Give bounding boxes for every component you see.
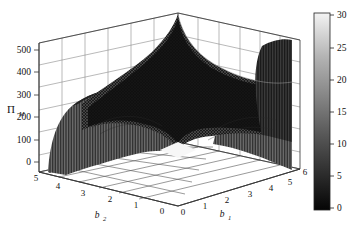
- z-tick-400: 400: [17, 67, 32, 77]
- b2-tick-5: 5: [34, 173, 39, 183]
- z-tick-0: 0: [26, 157, 31, 167]
- colorbar-gradient: [314, 13, 330, 210]
- b1-axis-title-subscript: 1: [228, 214, 231, 221]
- b1-tick-4: 4: [269, 183, 274, 193]
- b1-tick-6: 6: [303, 167, 308, 177]
- colorbar-tick-25: 25: [337, 43, 347, 53]
- z-tick-300: 300: [17, 90, 32, 100]
- z-axis-title-subscript: M: [18, 110, 25, 117]
- surface-mesh: [48, 14, 292, 175]
- b2-tick-4: 4: [56, 181, 61, 191]
- b1-tick-5: 5: [288, 177, 293, 187]
- b1-tick-0: 0: [181, 207, 186, 217]
- b1-axis-title: b: [220, 209, 225, 219]
- colorbar[interactable]: 30 25 20 15 10 5 0: [314, 10, 347, 213]
- z-axis-title: Π: [7, 103, 15, 115]
- z-tick-100: 100: [17, 135, 32, 145]
- surface-plot-canvas: 500 400 300 200 100 0 Π M 5 4 3 2 1 0 b …: [0, 0, 357, 235]
- colorbar-ticks: [330, 15, 334, 208]
- b2-tick-3: 3: [81, 188, 86, 198]
- b2-axis-title-subscript: 2: [103, 215, 107, 222]
- b2-axis-title: b: [95, 210, 100, 220]
- b2-tick-2: 2: [108, 194, 113, 204]
- colorbar-tick-0: 0: [337, 203, 342, 213]
- b2-tick-1: 1: [134, 200, 139, 210]
- b1-tick-1: 1: [203, 201, 208, 211]
- colorbar-tick-20: 20: [337, 75, 347, 85]
- b2-tick-0: 0: [160, 206, 165, 216]
- b1-tick-2: 2: [225, 195, 230, 205]
- colorbar-tick-30: 30: [337, 10, 347, 20]
- colorbar-tick-10: 10: [337, 139, 347, 149]
- z-axis: 500 400 300 200 100 0 Π M: [7, 43, 39, 172]
- colorbar-tick-15: 15: [337, 107, 347, 117]
- figure-root: 500 400 300 200 100 0 Π M 5 4 3 2 1 0 b …: [0, 0, 357, 235]
- z-tick-500: 500: [17, 45, 32, 55]
- colorbar-tick-5: 5: [337, 171, 342, 181]
- b1-tick-3: 3: [248, 189, 253, 199]
